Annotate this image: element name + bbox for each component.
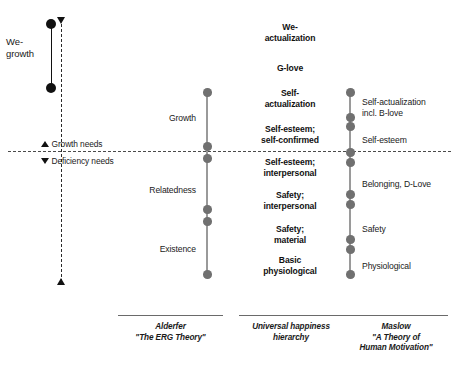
- needs-hierarchy-diagram: We- growth Growth needs Deficiency needs…: [0, 0, 458, 368]
- universal-stage-self-esteem-interpersonal-line2: interpersonal: [236, 168, 344, 179]
- alderfer-column-line: [206, 92, 208, 274]
- universal-stage-basic-physiological-line1: Basic: [236, 255, 344, 266]
- universal-stage-self-actualization: Self- actualization: [236, 88, 344, 110]
- alderfer-dot: [203, 205, 212, 214]
- maslow-dot: [346, 113, 355, 122]
- alderfer-caption-line1: Alderfer: [118, 322, 223, 333]
- universal-stage-g-love-line1: G-love: [236, 63, 344, 74]
- universal-caption: Universal happiness hierarchy: [236, 322, 346, 343]
- maslow-caption: Maslow "A Theory of Human Motivation": [341, 322, 451, 354]
- maslow-dot: [346, 190, 355, 199]
- maslow-stage-self-actualization-line2: incl. B-love: [362, 108, 426, 119]
- maslow-caption-rule: [343, 315, 448, 316]
- triangle-up-icon: [41, 141, 49, 147]
- universal-stage-safety-interpersonal-line2: interpersonal: [236, 201, 344, 212]
- growth-deficiency-divider: [8, 151, 451, 152]
- we-growth-label-line1: We-: [6, 36, 46, 48]
- universal-stage-self-esteem-self-confirmed-line2: self-confirmed: [236, 135, 344, 146]
- growth-needs-label: Growth needs: [52, 139, 103, 149]
- maslow-dot: [346, 235, 355, 244]
- alderfer-dot: [203, 142, 212, 151]
- universal-stage-self-actualization-line2: actualization: [236, 99, 344, 110]
- universal-caption-rule: [239, 315, 344, 316]
- maslow-dot: [346, 245, 355, 254]
- alderfer-stage-growth: Growth: [169, 113, 196, 124]
- maslow-stage-self-actualization-line1: Self-actualization: [362, 97, 426, 108]
- axis-bottom-triangle-up-icon: [57, 278, 65, 285]
- maslow-dot: [346, 158, 355, 167]
- deficiency-needs-label: Deficiency needs: [52, 156, 114, 166]
- universal-stage-self-esteem-interpersonal: Self-esteem; interpersonal: [236, 157, 344, 179]
- universal-stage-safety-material-line2: material: [236, 235, 344, 246]
- universal-stage-self-esteem-self-confirmed: Self-esteem; self-confirmed: [236, 124, 344, 146]
- universal-stage-we-actualization: We- actualization: [236, 22, 344, 44]
- universal-stage-safety-interpersonal: Safety; interpersonal: [236, 190, 344, 212]
- maslow-stage-belonging: Belonging, D-Love: [362, 179, 431, 190]
- maslow-stage-safety: Safety: [362, 224, 386, 235]
- universal-stage-basic-physiological: Basic physiological: [236, 255, 344, 277]
- triangle-down-icon: [41, 158, 49, 164]
- maslow-caption-line1: Maslow: [341, 322, 451, 333]
- universal-caption-line1: Universal happiness: [236, 322, 346, 333]
- alderfer-stage-existence: Existence: [160, 244, 196, 255]
- universal-stage-safety-material-line1: Safety;: [236, 224, 344, 235]
- maslow-dot: [346, 270, 355, 279]
- maslow-dot: [346, 88, 355, 97]
- universal-stage-self-actualization-line1: Self-: [236, 88, 344, 99]
- universal-stage-we-actualization-line1: We-: [236, 22, 344, 33]
- alderfer-caption-line2: "The ERG Theory": [118, 333, 223, 344]
- universal-stage-safety-interpersonal-line1: Safety;: [236, 190, 344, 201]
- deficiency-needs-marker: Deficiency needs: [41, 156, 114, 166]
- alderfer-dot: [203, 217, 212, 226]
- alderfer-dot: [203, 88, 212, 97]
- maslow-stage-physiological: Physiological: [362, 261, 411, 272]
- we-growth-segment: [51, 24, 52, 88]
- maslow-dot: [346, 200, 355, 209]
- alderfer-caption: Alderfer "The ERG Theory": [118, 322, 223, 343]
- maslow-caption-line3: Human Motivation": [341, 343, 451, 354]
- universal-caption-line2: hierarchy: [236, 333, 346, 344]
- axis-top-triangle-down-icon: [57, 17, 65, 24]
- we-growth-label-line2: growth: [6, 48, 46, 60]
- we-growth-top-dot-icon: [46, 19, 56, 29]
- universal-stage-self-esteem-self-confirmed-line1: Self-esteem;: [236, 124, 344, 135]
- vertical-dotted-axis: [61, 24, 62, 282]
- maslow-caption-line2: "A Theory of: [341, 333, 451, 344]
- universal-stage-safety-material: Safety; material: [236, 224, 344, 246]
- maslow-dot: [346, 148, 355, 157]
- we-growth-label: We- growth: [6, 36, 46, 59]
- alderfer-caption-rule: [118, 315, 223, 316]
- maslow-stage-self-actualization: Self-actualization incl. B-love: [362, 97, 426, 118]
- maslow-dot: [346, 122, 355, 131]
- universal-stage-self-esteem-interpersonal-line1: Self-esteem;: [236, 157, 344, 168]
- universal-stage-we-actualization-line2: actualization: [236, 33, 344, 44]
- maslow-stage-self-esteem: Self-esteem: [362, 135, 407, 146]
- alderfer-dot: [203, 154, 212, 163]
- alderfer-stage-relatedness: Relatedness: [149, 185, 196, 196]
- alderfer-dot: [203, 270, 212, 279]
- we-growth-bottom-dot-icon: [46, 83, 56, 93]
- universal-stage-g-love: G-love: [236, 63, 344, 74]
- growth-needs-marker: Growth needs: [41, 139, 102, 149]
- universal-stage-basic-physiological-line2: physiological: [236, 266, 344, 277]
